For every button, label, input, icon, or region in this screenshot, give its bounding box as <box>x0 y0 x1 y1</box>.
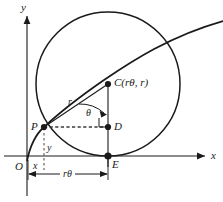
point-label-d: D <box>114 121 122 132</box>
point-marker-p <box>41 124 47 130</box>
y-axis-arrowhead <box>24 16 31 24</box>
point-label-p: P <box>31 121 38 132</box>
point-label-c: C(rθ, r) <box>114 77 148 88</box>
x-axis-label: x <box>211 150 216 161</box>
point-marker-d <box>105 124 111 130</box>
y-axis-label: y <box>21 2 26 13</box>
cycloid-curve <box>27 21 223 161</box>
arc-length-label: rθ <box>60 169 75 179</box>
offset-label: x <box>33 161 37 171</box>
height-label: y <box>47 143 51 153</box>
angle-label: θ <box>86 108 91 118</box>
dimension-arrow-right <box>100 171 108 177</box>
radius-label: r <box>68 97 72 107</box>
x-axis-arrowhead <box>197 153 205 160</box>
figure-canvas <box>0 0 223 202</box>
angle-theta-group <box>79 104 107 118</box>
construction-lines <box>44 84 108 170</box>
point-marker-e <box>104 152 111 159</box>
point-label-e: E <box>112 159 119 170</box>
cycloid-figure: y x O P C(rθ, r) D E r θ y x rθ <box>0 0 223 202</box>
origin-label: O <box>15 161 23 172</box>
point-marker-c <box>105 81 111 87</box>
radius-segment-pc <box>44 84 108 127</box>
dimension-arrow-left <box>28 171 36 177</box>
